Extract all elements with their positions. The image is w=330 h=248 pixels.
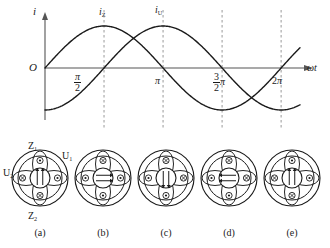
rotor-circle (219, 168, 239, 188)
x-tick-label-two-pi: 2π (272, 76, 282, 86)
slot-right-dot-mark (119, 177, 121, 179)
caption-b: (b) (83, 228, 123, 238)
slot-top-dot-mark (291, 159, 293, 161)
machine-diagram-b (75, 150, 131, 206)
caption-e: (e) (272, 228, 312, 238)
rotor-circle (30, 168, 50, 188)
machine-diagram-a (12, 150, 68, 206)
slot-left-dot-mark (84, 177, 86, 179)
slot-bottom-dot-mark (165, 194, 167, 196)
y-axis-arrowhead (42, 12, 48, 20)
series-label-iz: iZ (99, 7, 106, 17)
caption-c: (c) (146, 228, 186, 238)
machine-diagram-e (264, 150, 320, 206)
x-tick-label-pi: π (155, 76, 160, 86)
x-axis-label: ωt (307, 63, 317, 73)
rotor-circle (282, 168, 302, 188)
machine-diagram-c (138, 150, 194, 206)
caption-a: (a) (20, 228, 60, 238)
winding-label-u2: U2 (3, 168, 13, 178)
slot-left-dot-mark (147, 177, 149, 179)
winding-label-z2: Z2 (28, 211, 37, 221)
origin-label: O (29, 62, 37, 73)
machine-diagram-d (201, 150, 257, 206)
series-label-iu: iU (155, 5, 162, 15)
winding-label-z1: Z1 (28, 141, 37, 151)
rotor-circle (156, 168, 176, 188)
slot-left-dot-mark (210, 177, 212, 179)
caption-d: (d) (209, 228, 249, 238)
rotor-circle (93, 168, 113, 188)
slot-bottom-dot-mark (228, 194, 230, 196)
figure-svg (0, 0, 330, 248)
slot-right-dot-mark (308, 177, 310, 179)
y-axis-label: i (33, 6, 36, 17)
slot-right-dot-mark (56, 177, 58, 179)
figure-container: i O ωt iZ iU π2 π 32π 2π Z1 Z2 U2 U1 (a)… (0, 0, 330, 248)
x-tick-label-three-pi-over-2: 32π (213, 72, 225, 93)
slot-top-dot-mark (39, 159, 41, 161)
slot-bottom-dot-mark (102, 194, 104, 196)
winding-label-u1: U1 (62, 151, 72, 161)
x-tick-label-pi-over-2: π2 (74, 72, 81, 93)
